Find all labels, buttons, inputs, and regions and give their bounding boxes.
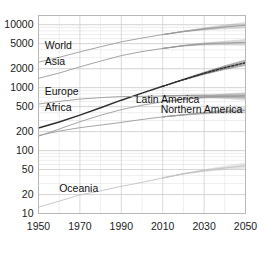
y-tick-label: 50 xyxy=(22,163,34,175)
y-tick-label: 1000 xyxy=(10,81,34,93)
series-label-africa: Africa xyxy=(45,101,72,113)
chart-svg: 10205010020050010002000500010000 1950197… xyxy=(0,0,264,257)
series-label-oceania: Oceania xyxy=(59,182,98,194)
x-tick-label: 2050 xyxy=(234,220,258,232)
series-label-northern-america: Northern America xyxy=(161,103,243,115)
population-projection-chart: 10205010020050010002000500010000 1950197… xyxy=(0,0,264,257)
series-label-europe: Europe xyxy=(45,85,79,97)
y-tick-label: 200 xyxy=(16,125,34,137)
y-axis-tick-labels: 10205010020050010002000500010000 xyxy=(4,18,33,219)
y-tick-label: 20 xyxy=(22,188,34,200)
x-axis-tick-labels: 195019701990201020302050 xyxy=(27,220,258,232)
y-tick-label: 10000 xyxy=(4,18,33,30)
x-tick-label: 1970 xyxy=(68,220,92,232)
y-tick-label: 100 xyxy=(16,144,34,156)
y-tick-label: 500 xyxy=(16,100,34,112)
x-tick-label: 2030 xyxy=(192,220,216,232)
series-label-world: World xyxy=(45,39,72,51)
x-tick-label: 2010 xyxy=(151,220,175,232)
y-tick-label: 10 xyxy=(22,207,34,219)
y-tick-label: 5000 xyxy=(10,37,34,49)
x-tick-label: 1990 xyxy=(110,220,134,232)
x-tick-label: 1950 xyxy=(27,220,51,232)
y-tick-label: 2000 xyxy=(10,62,34,74)
series-label-asia: Asia xyxy=(45,55,66,67)
